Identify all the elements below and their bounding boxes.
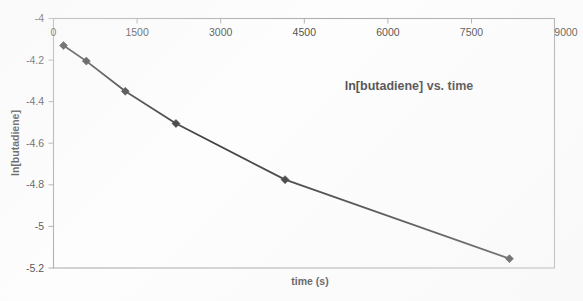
series-line-ln-butadiene [64, 46, 510, 259]
y-tick-labels: -4 -4.2 -4.4 -4.6 -4.8 -5 -5.2 [26, 12, 44, 274]
x-tick-labels: 0 1500 3000 4500 6000 7500 9000 [51, 26, 578, 38]
y-tick-label-5: -5 [35, 220, 44, 232]
series-markers [60, 42, 514, 263]
chart-title: ln[butadiene] vs. time [345, 79, 474, 93]
y-tick-label-3: -4.6 [26, 137, 44, 149]
y-tick-marks [49, 19, 54, 269]
data-point-marker [281, 176, 289, 184]
y-tick-label-2: -4.4 [26, 95, 44, 107]
y-tick-label-1: -4.2 [26, 54, 44, 66]
x-tick-label-2: 3000 [209, 26, 233, 38]
plot-frame [54, 19, 555, 269]
line-chart-figure: 0 1500 3000 4500 6000 7500 9000 -4 -4.2 … [0, 0, 583, 301]
data-point-marker [505, 255, 513, 263]
y-axis-title: ln[butadiene] [9, 110, 21, 176]
y-tick-label-4: -4.8 [26, 178, 44, 190]
x-axis-title: time (s) [291, 275, 328, 287]
x-tick-label-4: 6000 [376, 26, 400, 38]
x-tick-label-1: 1500 [125, 26, 149, 38]
chart-container: 0 1500 3000 4500 6000 7500 9000 -4 -4.2 … [0, 0, 583, 301]
x-tick-label-6: 9000 [554, 26, 578, 38]
y-tick-label-6: -5.2 [26, 262, 44, 274]
y-tick-label-0: -4 [35, 12, 44, 24]
x-tick-label-3: 4500 [293, 26, 317, 38]
x-tick-label-5: 7500 [460, 26, 484, 38]
x-tick-label-0: 0 [51, 26, 57, 38]
x-tick-marks [54, 19, 555, 24]
